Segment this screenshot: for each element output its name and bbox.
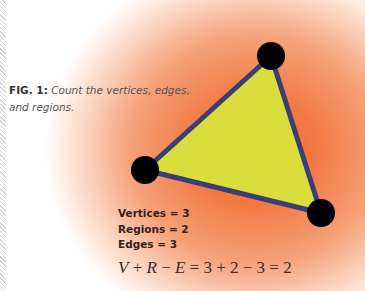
formula-minus: − xyxy=(157,258,175,277)
formula-r: R xyxy=(146,258,156,277)
counts-block: Vertices = 3 Regions = 2 Edges = 3 xyxy=(118,206,189,253)
vertex-left xyxy=(131,156,159,184)
vertex-top xyxy=(257,42,285,70)
edges-count: Edges = 3 xyxy=(118,237,189,253)
vertex-bottom-right xyxy=(307,199,335,227)
regions-count: Regions = 2 xyxy=(118,222,189,238)
vertices-count: Vertices = 3 xyxy=(118,206,189,222)
euler-formula: V + R − E = 3 + 2 − 3 = 2 xyxy=(118,258,292,278)
formula-e: E xyxy=(175,258,185,277)
triangle-region xyxy=(145,56,321,213)
figure: FIG. 1: Count the vertices, edges, and r… xyxy=(0,0,365,291)
formula-rhs: = 3 + 2 − 3 = 2 xyxy=(185,258,291,277)
formula-plus: + xyxy=(128,258,146,277)
formula-v: V xyxy=(118,258,128,277)
